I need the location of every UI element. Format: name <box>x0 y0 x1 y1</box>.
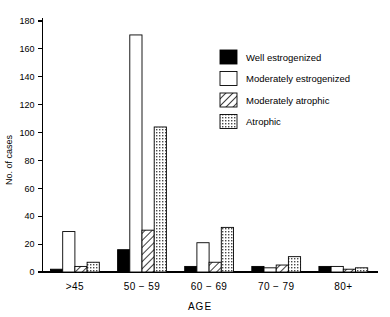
y-tick-label: 140 <box>19 72 34 82</box>
legend-label: Atrophic <box>246 116 281 127</box>
bar <box>356 268 368 272</box>
bar <box>252 266 264 272</box>
bar <box>63 232 75 272</box>
legend-swatch <box>220 93 237 107</box>
bars-layer <box>51 35 368 272</box>
legend-swatch <box>220 72 237 86</box>
x-axis-title: AGE <box>188 301 212 312</box>
bar <box>331 266 343 272</box>
bar-chart: 020406080100120140160180 >4550 − 5960 − … <box>0 0 390 317</box>
y-tick-label: 120 <box>19 100 34 110</box>
bar <box>51 269 63 272</box>
x-tick-label: 60 − 69 <box>191 281 227 292</box>
bar <box>130 35 142 272</box>
legend-label: Moderately estrogenized <box>246 73 350 84</box>
bar <box>118 250 130 272</box>
bar <box>209 262 221 272</box>
legend-swatch <box>220 50 237 64</box>
y-tick-label: 160 <box>19 44 34 54</box>
bar <box>154 127 166 272</box>
legend-swatch <box>220 115 237 129</box>
y-axis-title: No. of cases <box>4 134 14 185</box>
y-tick-label: 180 <box>19 16 34 26</box>
x-tick-label: 80+ <box>334 281 352 292</box>
bar <box>264 268 276 272</box>
y-tick-label: 100 <box>19 128 34 138</box>
bar <box>221 227 233 272</box>
y-tick-label: 40 <box>24 211 34 221</box>
x-tick-label: >45 <box>66 281 84 292</box>
bar <box>142 230 154 272</box>
y-axis: 020406080100120140160180 <box>19 16 42 277</box>
y-tick-label: 20 <box>24 239 34 249</box>
chart-legend: Well estrogenizedModerately estrogenized… <box>220 50 350 129</box>
bar <box>276 265 288 272</box>
bar <box>288 257 300 272</box>
bar <box>185 266 197 272</box>
x-tick-label: 50 − 59 <box>124 281 160 292</box>
x-tick-label: 70 − 79 <box>258 281 294 292</box>
bar <box>197 243 209 272</box>
category-labels: >4550 − 5960 − 6970 − 7980+ <box>66 281 353 292</box>
y-tick-label: 60 <box>24 184 34 194</box>
bar <box>343 269 355 272</box>
bar <box>75 266 87 272</box>
y-tick-label: 80 <box>24 156 34 166</box>
legend-label: Moderately atrophic <box>246 95 330 106</box>
legend-label: Well estrogenized <box>246 52 321 63</box>
bar <box>319 266 331 272</box>
y-tick-label: 0 <box>29 267 34 277</box>
bar <box>87 262 99 272</box>
